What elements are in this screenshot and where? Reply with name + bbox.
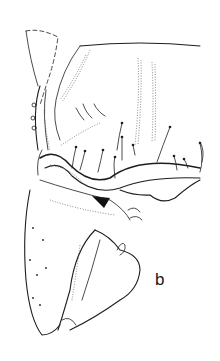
panel-label: b bbox=[155, 271, 164, 288]
left-column bbox=[31, 86, 50, 150]
lower-lobe bbox=[25, 180, 142, 335]
upper-segment bbox=[55, 43, 203, 162]
line-drawing bbox=[0, 0, 220, 361]
dashed-membrane-outline bbox=[26, 30, 58, 105]
middle-band bbox=[38, 150, 201, 208]
bristles bbox=[72, 122, 202, 178]
